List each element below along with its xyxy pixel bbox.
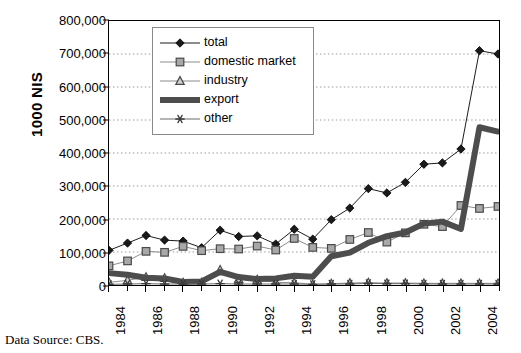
x-tick-label: 2002 — [448, 306, 463, 335]
legend-label: export — [204, 93, 239, 106]
x-tick-mark — [201, 286, 202, 291]
series-export — [109, 127, 498, 282]
x-tick-mark — [387, 286, 388, 291]
y-tick-label: 800,000 — [44, 13, 106, 28]
x-tick-mark — [276, 286, 277, 291]
y-tick-label: 100,000 — [44, 245, 106, 260]
legend-item-total[interactable]: total — [159, 33, 307, 52]
x-tick-label: 1998 — [374, 306, 389, 335]
x-tick-mark — [164, 286, 165, 291]
x-tick-label: 2000 — [411, 306, 426, 335]
y-tick-label: 700,000 — [44, 46, 106, 61]
x-tick-mark — [443, 286, 444, 292]
y-axis-tick-labels: 0100,000200,000300,000400,000500,000600,… — [44, 20, 106, 286]
chart-legend: totaldomestic marketindustryexportother — [152, 27, 314, 135]
x-tick-mark — [313, 286, 314, 291]
x-axis-ticks — [108, 286, 500, 293]
y-tick-label: 600,000 — [44, 79, 106, 94]
x-tick-label: 1988 — [187, 306, 202, 335]
series-domestic-market — [109, 202, 499, 270]
triangle-icon — [159, 73, 201, 89]
chart-figure: 1000 NIS 0100,000200,000300,000400,00050… — [0, 0, 521, 353]
x-tick-label: 1990 — [225, 306, 240, 335]
y-tick-label: 500,000 — [44, 112, 106, 127]
x-tick-mark — [369, 286, 370, 292]
x-tick-mark — [350, 286, 351, 291]
thick-line-icon — [159, 92, 201, 108]
x-tick-mark — [127, 286, 128, 291]
x-tick-label: 1986 — [150, 306, 165, 335]
diamond-icon — [159, 35, 201, 51]
x-tick-label: 1994 — [299, 306, 314, 335]
y-axis-title: 1000 NIS — [28, 35, 45, 175]
legend-label: total — [204, 36, 228, 49]
x-tick-mark — [331, 286, 332, 292]
x-tick-mark — [462, 286, 463, 291]
x-tick-mark — [480, 286, 481, 292]
legend-label: domestic market — [204, 55, 296, 68]
x-tick-mark — [182, 286, 183, 292]
x-tick-mark — [145, 286, 146, 292]
x-tick-label: 1992 — [262, 306, 277, 335]
legend-item-domestic-market[interactable]: domestic market — [159, 52, 307, 71]
x-tick-mark — [294, 286, 295, 292]
y-tick-label: 0 — [44, 279, 106, 294]
y-tick-label: 400,000 — [44, 146, 106, 161]
x-tick-mark — [425, 286, 426, 291]
x-tick-mark — [257, 286, 258, 292]
legend-label: industry — [204, 74, 248, 87]
y-tick-label: 300,000 — [44, 179, 106, 194]
legend-label: other — [204, 112, 233, 125]
x-tick-mark — [220, 286, 221, 292]
x-tick-mark — [108, 286, 109, 292]
x-tick-mark — [406, 286, 407, 292]
x-tick-label: 1984 — [113, 306, 128, 335]
legend-item-export[interactable]: export — [159, 90, 307, 109]
x-tick-label: 1996 — [336, 306, 351, 335]
x-axis-tick-labels: 1984198619881990199219941996199820002002… — [108, 293, 500, 339]
x-tick-label: 2004 — [485, 306, 500, 335]
data-source-note: Data Source: CBS. — [5, 332, 104, 348]
legend-item-other[interactable]: other — [159, 109, 307, 128]
x-tick-mark — [238, 286, 239, 291]
x-tick-mark — [499, 286, 500, 291]
y-tick-label: 200,000 — [44, 212, 106, 227]
square-icon — [159, 54, 201, 70]
asterisk-icon — [159, 111, 201, 127]
legend-item-industry[interactable]: industry — [159, 71, 307, 90]
